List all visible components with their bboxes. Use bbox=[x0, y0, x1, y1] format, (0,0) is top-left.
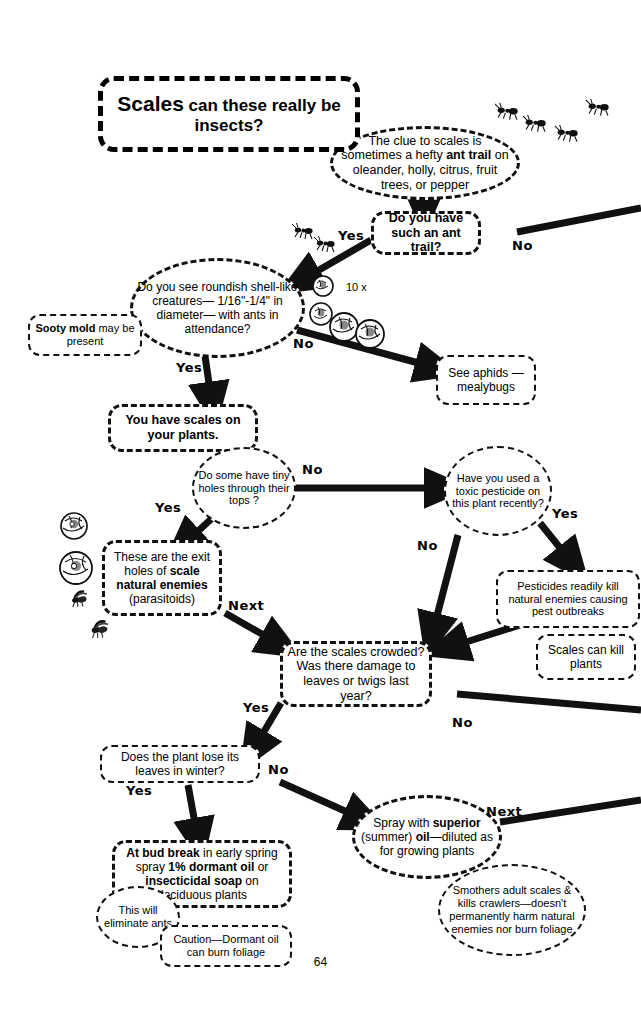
node-lose-leaves-question: Does the plant lose its leaves in winter… bbox=[100, 745, 260, 783]
edge-pesticides-kill-to-crowded bbox=[447, 625, 520, 648]
edge-exit-holes-next bbox=[225, 613, 281, 645]
edge-label-no-ant-trail: No bbox=[512, 238, 533, 253]
edge-label-yes-tiny-holes: Yes bbox=[155, 500, 181, 515]
edge-crowded-no bbox=[457, 694, 641, 710]
magnification-label: 10 x bbox=[346, 281, 367, 293]
edge-label-no-lose-leaves: No bbox=[268, 762, 289, 777]
edge-label-no-tiny-holes: No bbox=[302, 462, 323, 477]
node-you-have-scales: You have scales on your plants. bbox=[108, 404, 258, 452]
node-smothers-adult-scales: Smothers adult scales & kills crawlers—d… bbox=[438, 864, 586, 956]
node-tiny-holes-question-text: Do some have tiny holes through their to… bbox=[194, 469, 294, 508]
node-scales-kill-plants-text: Scales can kill plants bbox=[538, 643, 634, 671]
edge-label-yes-roundish: Yes bbox=[176, 360, 202, 375]
node-clue-to-scales-text: The clue to scales is sometimes a hefty … bbox=[333, 134, 517, 193]
node-pesticides-kill-enemies: Pesticides readily kill natural enemies … bbox=[496, 570, 640, 628]
node-spray-superior-oil: Spray with superior (summer) oil—diluted… bbox=[352, 795, 502, 879]
edge-label-no-roundish: No bbox=[293, 336, 314, 351]
edge-roundish-yes bbox=[205, 356, 212, 404]
edge-label-no-pesticide: No bbox=[417, 538, 438, 553]
edge-lose-leaves-no bbox=[280, 782, 365, 820]
node-you-have-scales-text: You have scales on your plants. bbox=[111, 413, 255, 443]
node-ant-trail-question-text: Do you have such an ant trail? bbox=[374, 211, 478, 255]
node-ant-trail-question: Do you have such an ant trail? bbox=[371, 211, 481, 255]
node-lose-leaves-question-text: Does the plant lose its leaves in winter… bbox=[102, 750, 258, 778]
page-title-rest: can these really be insects? bbox=[189, 96, 341, 136]
node-see-aphids-text: See aphids — mealybugs bbox=[438, 366, 534, 394]
page-title-lead: Scales bbox=[117, 92, 184, 115]
page-title: Scales can these really be insects? bbox=[103, 92, 355, 137]
node-exit-holes-text: These are the exit holes of scale natura… bbox=[105, 550, 219, 607]
page-title-banner: Scales can these really be insects? bbox=[98, 76, 360, 152]
edge-label-yes-lose-leaves: Yes bbox=[126, 783, 152, 798]
node-exit-holes: These are the exit holes of scale natura… bbox=[102, 540, 222, 616]
edge-label-yes-pesticide: Yes bbox=[552, 506, 578, 521]
node-spray-superior-oil-text: Spray with superior (summer) oil—diluted… bbox=[355, 816, 499, 858]
node-scales-crowded-question-text: Are the scales crowded? Was there damage… bbox=[283, 645, 429, 704]
edge-lose-leaves-yes bbox=[188, 785, 198, 840]
edge-label-next-exit-holes: Next bbox=[228, 598, 264, 613]
node-tiny-holes-question: Do some have tiny holes through their to… bbox=[192, 447, 296, 529]
edge-label-next-spray: Next bbox=[486, 804, 522, 819]
page-number: 64 bbox=[0, 955, 641, 969]
edge-label-no-crowded: No bbox=[452, 715, 473, 730]
node-roundish-creatures-question-text: Do you see roundish shell-like creatures… bbox=[133, 280, 302, 337]
node-pesticides-kill-enemies-text: Pesticides readily kill natural enemies … bbox=[498, 580, 638, 619]
node-scales-crowded-question: Are the scales crowded? Was there damage… bbox=[280, 641, 432, 707]
edge-pesticide-yes bbox=[540, 523, 573, 564]
node-scales-kill-plants: Scales can kill plants bbox=[536, 634, 636, 680]
node-smothers-adult-scales-text: Smothers adult scales & kills crawlers—d… bbox=[440, 884, 584, 936]
node-toxic-pesticide-question-text: Have you used a toxic pesticide on this … bbox=[446, 472, 550, 511]
node-sooty-mold-text: Sooty mold may be present bbox=[30, 322, 140, 348]
edge-ant-trail-no bbox=[517, 208, 641, 232]
edge-label-yes-ant-trail: Yes bbox=[338, 228, 364, 243]
node-toxic-pesticide-question: Have you used a toxic pesticide on this … bbox=[444, 446, 552, 536]
flowchart-page: Scales can these really be insects? bbox=[0, 0, 641, 1035]
node-roundish-creatures-question: Do you see roundish shell-like creatures… bbox=[130, 258, 305, 358]
node-sooty-mold: Sooty mold may be present bbox=[28, 314, 142, 356]
edge-label-yes-crowded: Yes bbox=[243, 700, 269, 715]
node-see-aphids: See aphids — mealybugs bbox=[436, 355, 536, 405]
